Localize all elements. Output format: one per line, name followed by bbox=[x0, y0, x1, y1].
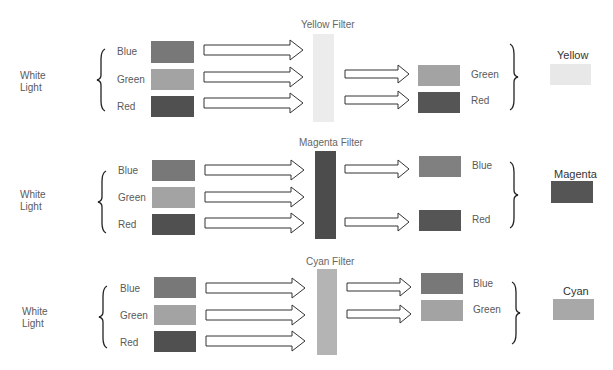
output-swatch-red bbox=[419, 210, 461, 231]
arrow-icon bbox=[204, 40, 303, 60]
result-swatch-cyan bbox=[553, 299, 594, 320]
filter-label: Magenta Filter bbox=[299, 137, 363, 148]
arrow-icon bbox=[347, 305, 411, 323]
result-label: Magenta bbox=[554, 168, 597, 180]
white-light-label: White Light bbox=[20, 189, 46, 213]
left-brace-icon bbox=[98, 171, 106, 233]
filter-label: Yellow Filter bbox=[301, 19, 355, 30]
arrow-icon bbox=[205, 187, 304, 207]
input-label-red: Red bbox=[120, 337, 138, 348]
output-swatch-blue bbox=[421, 273, 463, 294]
input-label-blue: Blue bbox=[120, 283, 140, 294]
output-label-blue: Blue bbox=[472, 160, 492, 171]
input-label-green: Green bbox=[118, 192, 146, 203]
output-label-green: Green bbox=[471, 69, 499, 80]
result-swatch-yellow bbox=[550, 64, 591, 85]
yellow-filter-bar bbox=[313, 34, 334, 122]
arrow-icon bbox=[205, 160, 304, 180]
swatch-green bbox=[154, 305, 196, 325]
swatch-blue bbox=[151, 41, 194, 63]
arrow-icon bbox=[204, 93, 303, 113]
input-label-green: Green bbox=[117, 74, 145, 85]
input-label-blue: Blue bbox=[118, 165, 138, 176]
output-swatch-red bbox=[418, 92, 460, 113]
arrow-icon bbox=[206, 278, 305, 298]
swatch-green bbox=[151, 69, 194, 90]
swatch-red bbox=[154, 331, 196, 352]
white-light-line-1: White bbox=[22, 306, 48, 318]
cyan-filter-bar bbox=[317, 269, 337, 355]
left-brace-icon bbox=[97, 49, 105, 111]
output-label-green: Green bbox=[473, 304, 501, 315]
swatch-blue bbox=[154, 277, 196, 298]
input-label-green: Green bbox=[120, 310, 148, 321]
swatch-red bbox=[151, 96, 194, 117]
white-light-line-2: Light bbox=[20, 201, 46, 213]
white-light-label: White Light bbox=[20, 70, 46, 94]
output-swatch-blue bbox=[419, 156, 461, 177]
white-light-line-2: Light bbox=[22, 318, 48, 330]
swatch-red bbox=[152, 214, 195, 235]
result-swatch-magenta bbox=[551, 181, 593, 203]
white-light-line-1: White bbox=[20, 189, 46, 201]
right-brace-icon bbox=[512, 282, 520, 344]
arrow-icon bbox=[347, 278, 411, 296]
arrows-and-braces-layer bbox=[0, 0, 613, 370]
filter-label: Cyan Filter bbox=[306, 256, 354, 267]
magenta-filter-bar bbox=[315, 151, 336, 239]
left-brace-icon bbox=[99, 286, 107, 348]
input-label-red: Red bbox=[117, 101, 135, 112]
arrow-icon bbox=[204, 67, 303, 87]
arrow-icon bbox=[345, 65, 409, 83]
output-swatch-green bbox=[418, 65, 460, 86]
result-label: Cyan bbox=[563, 285, 589, 297]
input-label-blue: Blue bbox=[117, 46, 137, 57]
output-label-blue: Blue bbox=[473, 278, 493, 289]
arrow-icon bbox=[345, 160, 409, 178]
output-label-red: Red bbox=[471, 95, 489, 106]
output-swatch-green bbox=[421, 300, 463, 321]
arrow-icon bbox=[345, 213, 409, 231]
result-label: Yellow bbox=[557, 49, 588, 61]
swatch-blue bbox=[152, 160, 195, 181]
right-brace-icon bbox=[510, 44, 518, 110]
arrow-icon bbox=[206, 305, 305, 325]
white-light-line-1: White bbox=[20, 70, 46, 82]
arrow-icon bbox=[345, 91, 409, 109]
arrow-icon bbox=[206, 331, 305, 351]
right-brace-icon bbox=[510, 162, 518, 228]
arrow-icon bbox=[205, 213, 304, 233]
swatch-green bbox=[152, 187, 195, 208]
white-light-line-2: Light bbox=[20, 82, 46, 94]
white-light-label: White Light bbox=[22, 306, 48, 330]
output-label-red: Red bbox=[472, 214, 490, 225]
input-label-red: Red bbox=[118, 219, 136, 230]
